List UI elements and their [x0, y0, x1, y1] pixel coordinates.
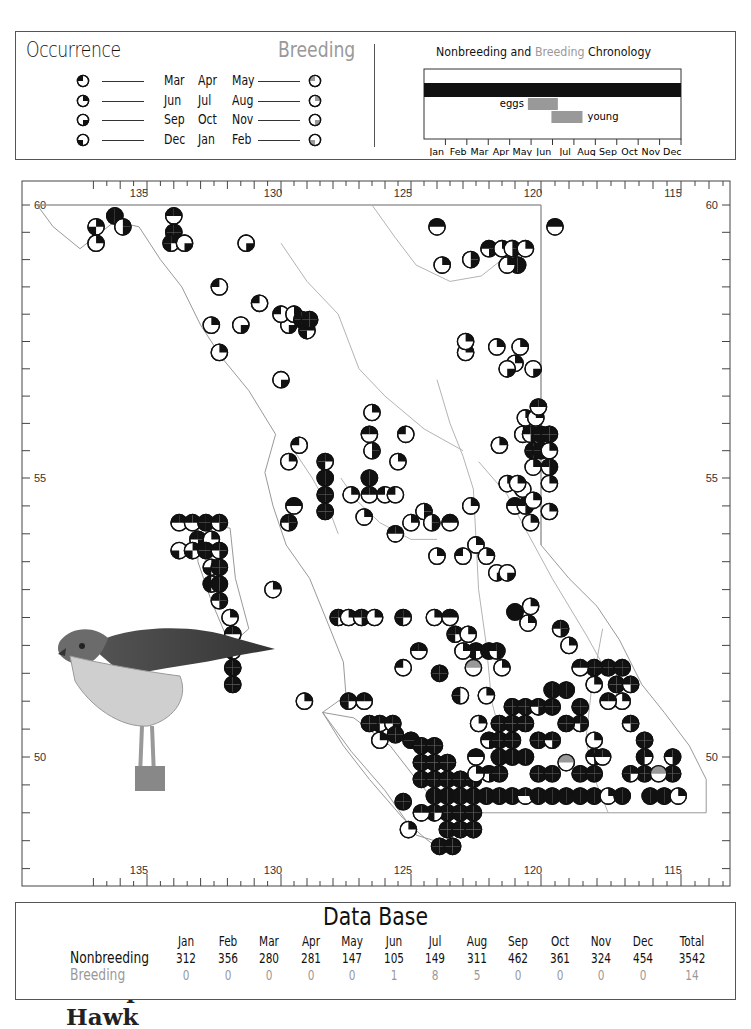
- quadrant-mark: [309, 75, 320, 86]
- chronology-title-nonbreeding: Nonbreeding: [436, 44, 507, 59]
- occurrence-symbol-icon: [76, 74, 90, 88]
- legend-month: Jul: [198, 92, 211, 108]
- legend-line: [102, 81, 144, 82]
- chronology-title: Nonbreeding and Breeding Chronology: [436, 44, 651, 59]
- table-cell: 324: [586, 950, 616, 966]
- table-cell: 356: [213, 950, 243, 966]
- occurrence-symbol: [115, 219, 131, 235]
- database-title: Data Base: [70, 903, 681, 931]
- occurrence-symbol: [442, 514, 458, 530]
- legend-line: [102, 101, 144, 102]
- occurrence-symbol: [343, 487, 359, 503]
- column-header: May: [337, 933, 367, 949]
- occurrence-symbol: [586, 732, 602, 748]
- occurrence-symbol: [356, 693, 372, 709]
- legend-month: May: [232, 72, 255, 88]
- chronology-bar-nonbreeding: [424, 83, 681, 97]
- occurrence-symbol: [411, 643, 427, 659]
- chronology-bar-label: young: [587, 111, 618, 122]
- occurrence-symbol: [291, 437, 307, 453]
- column-header: Aug: [462, 933, 492, 949]
- chronology-month-label: Jun: [535, 146, 551, 156]
- occurrence-symbol: [499, 361, 515, 377]
- column-header: Feb: [213, 933, 243, 949]
- legend-month: Nov: [232, 111, 253, 127]
- occurrence-symbol: [439, 754, 455, 770]
- occurrence-symbol: [265, 581, 281, 597]
- table-cell: 0: [254, 967, 284, 983]
- chronology-month-label: Nov: [642, 146, 661, 156]
- occurrence-symbol: [622, 676, 638, 692]
- chronology-bar-young: [551, 111, 582, 123]
- chronology-title-breeding: Breeding: [535, 44, 585, 59]
- occurrence-symbol: [211, 576, 227, 592]
- occurrence-symbol: [491, 437, 507, 453]
- season-row: JunJulAug: [16, 92, 356, 112]
- table-cell: 149: [420, 950, 450, 966]
- occurrence-symbol: [211, 559, 227, 575]
- occurrence-symbol: [636, 749, 652, 765]
- occurrence-symbol: [317, 487, 333, 503]
- occurrence-symbol: [499, 565, 515, 581]
- occurrence-symbol: [176, 235, 192, 251]
- breeding-symbol-icon: [308, 74, 322, 88]
- occurrence-symbol: [361, 487, 377, 503]
- occurrence-symbol: [317, 453, 333, 469]
- legend-divider: [374, 44, 375, 147]
- occurrence-symbol: [470, 715, 486, 731]
- occurrence-symbol: [460, 626, 476, 642]
- chronology-month-label: Apr: [493, 146, 510, 156]
- occurrence-symbol: [525, 492, 541, 508]
- legend-month: Jan: [198, 131, 215, 147]
- occurrence-symbol: [455, 643, 471, 659]
- season-row: SepOctNov: [16, 111, 356, 131]
- quadrant-mark: [309, 95, 320, 106]
- row-label: Breeding: [70, 966, 125, 984]
- longitude-label-bottom: 130: [264, 864, 282, 876]
- table-cell: 0: [545, 967, 575, 983]
- occurrence-symbol: [203, 317, 219, 333]
- hawk-illustration: [30, 616, 275, 791]
- quadrant-mark: [77, 95, 88, 106]
- table-cell: 0: [586, 967, 616, 983]
- table-cell: 0: [337, 967, 367, 983]
- season-row: MarAprMay: [16, 72, 356, 92]
- occurrence-symbol: [366, 609, 382, 625]
- occurrence-symbol: [429, 219, 445, 235]
- table-cell: 281: [296, 950, 326, 966]
- table-cell: 312: [171, 950, 201, 966]
- longitude-label-bottom: 125: [394, 864, 412, 876]
- table-cell: 361: [545, 950, 575, 966]
- occurrence-symbol: [541, 503, 557, 519]
- table-cell: 8: [420, 967, 450, 983]
- occurrence-symbol: [664, 749, 680, 765]
- occurrence-symbol: [622, 766, 638, 782]
- latitude-label-right: 55: [706, 472, 718, 484]
- occurrence-symbol: [395, 660, 411, 676]
- quadrant-mark: [77, 114, 88, 125]
- occurrence-symbol: [424, 514, 440, 530]
- occurrence-symbol: [317, 470, 333, 486]
- occurrence-symbol: [522, 514, 538, 530]
- occurrence-symbol: [544, 732, 560, 748]
- occurrence-symbol: [400, 821, 416, 837]
- occurrence-symbol: [530, 399, 546, 415]
- chronology-bar-eggs: [528, 98, 558, 110]
- occurrence-symbol: [558, 682, 574, 698]
- occurrence-symbol: [317, 503, 333, 519]
- occurrence-symbol: [552, 620, 568, 636]
- legend-line: [102, 140, 144, 141]
- column-header: Total: [677, 933, 707, 949]
- occurrence-symbol: [431, 665, 447, 681]
- occurrence-symbol: [558, 715, 574, 731]
- column-header: Mar: [254, 933, 284, 949]
- chronology-title-and: and: [511, 44, 532, 59]
- occurrence-symbol-icon: [76, 133, 90, 147]
- legend-month: Mar: [164, 72, 185, 88]
- column-header: Nov: [586, 933, 616, 949]
- occurrence-symbol: [586, 676, 602, 692]
- occurrence-symbol: [426, 609, 442, 625]
- occurrence-symbol: [211, 344, 227, 360]
- occurrence-symbol: [465, 821, 481, 837]
- river-line: [586, 629, 608, 813]
